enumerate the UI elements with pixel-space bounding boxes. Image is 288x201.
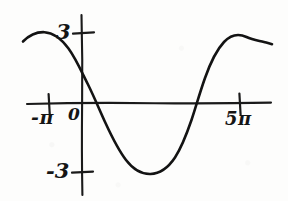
y-tick-negative-three xyxy=(72,172,93,173)
origin-label: 0 xyxy=(68,106,80,123)
y-tick-positive-three xyxy=(73,32,94,33)
y-axis-label-negative-three: -3 xyxy=(46,160,69,181)
plot-canvas xyxy=(0,0,288,201)
x-axis-label-negative-pi: -π xyxy=(31,108,54,127)
x-axis-line xyxy=(27,103,271,104)
graph-figure: 3 -3 -π 0 5π xyxy=(0,0,288,201)
x-axis-label-five-pi: 5π xyxy=(225,110,252,128)
y-axis-label-positive-three: 3 xyxy=(56,21,71,42)
y-axis-line xyxy=(82,15,83,195)
